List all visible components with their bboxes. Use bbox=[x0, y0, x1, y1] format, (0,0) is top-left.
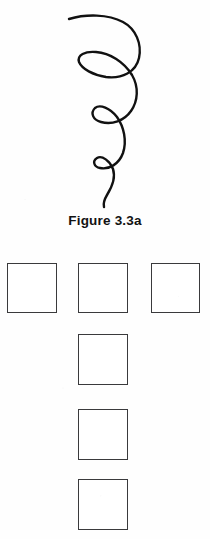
square-column-2[interactable] bbox=[78, 334, 128, 385]
square-top-left[interactable] bbox=[7, 263, 57, 313]
square-top-right[interactable] bbox=[151, 263, 200, 313]
square-column-4[interactable] bbox=[78, 479, 128, 530]
figure-page: Figure 3.3a bbox=[0, 0, 210, 539]
square-column-3[interactable] bbox=[78, 409, 128, 460]
square-top-middle[interactable] bbox=[78, 263, 128, 313]
answer-squares-grid bbox=[0, 0, 210, 539]
